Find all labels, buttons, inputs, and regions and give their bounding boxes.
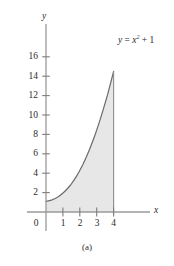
y-tick-label-8: 8 [22, 130, 38, 140]
figure-caption: (a) [0, 243, 174, 252]
shaded-area-under-curve [46, 71, 114, 212]
x-axis-label: x [154, 206, 158, 216]
y-tick-label-16: 16 [22, 52, 38, 62]
y-tick-label-2: 2 [22, 188, 38, 198]
equation-constant: 1 [150, 35, 155, 45]
y-tick-label-12: 12 [22, 91, 38, 101]
x-tick-label-0: 0 [31, 219, 41, 229]
function-equation-label: y = x2 + 1 [118, 35, 154, 46]
x-tick-label-1: 1 [58, 219, 68, 229]
y-tick-label-10: 10 [22, 111, 38, 121]
y-tick-label-14: 14 [22, 72, 38, 82]
x-tick-label-4: 4 [109, 219, 119, 229]
x-tick-label-3: 3 [92, 219, 102, 229]
y-tick-label-4: 4 [22, 169, 38, 179]
y-axis-label: y [42, 12, 46, 22]
y-tick-label-6: 6 [22, 149, 38, 159]
x-tick-label-2: 2 [75, 219, 85, 229]
figure-container: y x 16 14 12 10 8 6 4 2 0 1 2 3 4 y = x2… [0, 0, 174, 266]
